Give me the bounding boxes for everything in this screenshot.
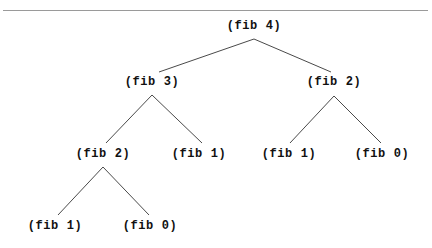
- tree-edge-n01-to-n010: [290, 96, 334, 143]
- tree-node-n01: (fib 2): [307, 76, 362, 88]
- tree-node-n0: (fib 4): [227, 20, 282, 32]
- tree-edge-n01-to-n011: [334, 96, 381, 143]
- tree-node-n00: (fib 3): [125, 76, 180, 88]
- tree-edge-n0-to-n01: [254, 39, 331, 72]
- tree-edge-n0-to-n00: [159, 39, 254, 72]
- tree-node-n011: (fib 0): [355, 148, 410, 160]
- fib-recursion-tree-figure: (fib 4)(fib 3)(fib 2)(fib 2)(fib 1)(fib …: [0, 0, 432, 248]
- tree-node-n000: (fib 2): [76, 148, 131, 160]
- tree-edge-n000-to-n0001: [103, 167, 149, 215]
- tree-node-n001: (fib 1): [172, 148, 227, 160]
- tree-node-n0000: (fib 1): [28, 220, 83, 232]
- tree-node-n010: (fib 1): [262, 148, 317, 160]
- tree-edge-n00-to-n001: [152, 95, 202, 143]
- tree-edge-n00-to-n000: [106, 95, 152, 143]
- tree-node-n0001: (fib 0): [123, 220, 178, 232]
- tree-edges-layer: [0, 0, 432, 248]
- tree-edge-n000-to-n0000: [58, 167, 103, 215]
